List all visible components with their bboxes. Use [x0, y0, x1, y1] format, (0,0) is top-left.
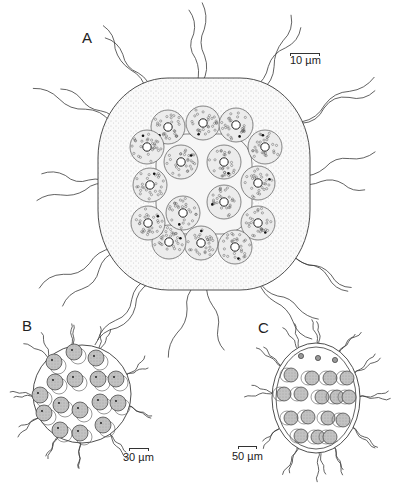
scale-bar-c: [238, 446, 257, 447]
small-somatic-cell: [332, 357, 337, 362]
cell: [166, 196, 200, 230]
panel-label-c: C: [258, 320, 269, 335]
scale-bar-b: [129, 448, 149, 449]
scale-label-c: 50 µm: [232, 451, 263, 462]
cell: [207, 145, 241, 179]
cell: [248, 130, 282, 164]
small-somatic-cell: [298, 353, 303, 358]
panel-label-a: A: [82, 30, 92, 45]
scale-label-a: 10 µm: [290, 55, 321, 66]
cell: [207, 185, 241, 219]
cell: [133, 168, 167, 202]
cell: [131, 206, 165, 240]
cell: [164, 145, 198, 179]
cell: [219, 108, 253, 142]
cell: [241, 166, 275, 200]
cell: [130, 130, 164, 164]
panel-label-b: B: [22, 318, 32, 333]
colony-illustration: [0, 0, 403, 493]
cell: [218, 230, 252, 264]
cell: [184, 226, 218, 260]
cell: [186, 106, 220, 140]
scale-label-b: 30 µm: [123, 452, 154, 463]
small-somatic-cell: [315, 355, 320, 360]
